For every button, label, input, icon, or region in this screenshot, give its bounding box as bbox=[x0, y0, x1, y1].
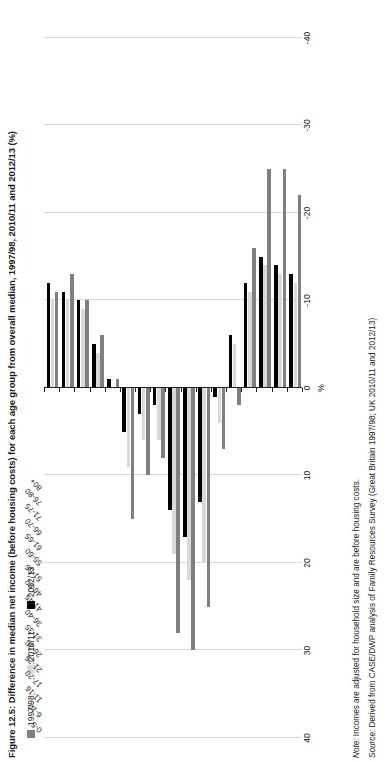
category-tick bbox=[165, 388, 166, 392]
bar-1997-98-51-55 bbox=[207, 388, 211, 607]
source-text: Derived from CASE/DWP analysis of Family… bbox=[368, 318, 377, 730]
bar-group bbox=[181, 38, 196, 738]
value-axis: 403020100-10-20-30-40% bbox=[302, 38, 318, 738]
bar-2010-11-6-10 bbox=[66, 301, 70, 389]
axis-tick-label-0: 0 bbox=[302, 386, 312, 391]
note-text: Incomes are adjusted for household size … bbox=[352, 479, 361, 738]
bar-1997-98-41-45 bbox=[176, 388, 180, 633]
bar-2010-11-76-80 bbox=[278, 274, 282, 388]
bar-1997-98-80+ bbox=[298, 196, 302, 389]
bar-2012-13-0-5 bbox=[47, 283, 51, 388]
bar-1997-98-55-60 bbox=[222, 388, 226, 449]
bar-2010-11-61-65 bbox=[233, 344, 237, 388]
bar-2012-13-31-35 bbox=[138, 388, 142, 414]
category-tick bbox=[272, 388, 273, 392]
axis-tick-label-20: 20 bbox=[302, 558, 312, 567]
bar-group bbox=[74, 38, 89, 738]
bar-group bbox=[150, 38, 165, 738]
category-label-11-16: 11-16 bbox=[24, 684, 44, 704]
bar-group bbox=[196, 38, 211, 738]
bar-group bbox=[272, 38, 287, 738]
bar-group bbox=[59, 38, 74, 738]
plot-area bbox=[44, 38, 302, 738]
bar-group bbox=[90, 38, 105, 738]
category-tick bbox=[211, 388, 212, 392]
bar-2012-13-80+ bbox=[289, 274, 293, 388]
category-tick bbox=[226, 388, 227, 392]
bar-2010-11-51-55 bbox=[202, 388, 206, 563]
bar-1997-98-0-5 bbox=[55, 292, 59, 388]
axis-tick-label-30: 30 bbox=[302, 646, 312, 655]
axis-tick-label--10: -10 bbox=[302, 294, 312, 306]
category-tick bbox=[44, 388, 45, 392]
category-tick bbox=[59, 388, 60, 392]
bar-2010-11-80+ bbox=[294, 283, 298, 388]
bar-group bbox=[120, 38, 135, 738]
chart-note: Note: Incomes are adjusted for household… bbox=[352, 479, 361, 758]
bar-2012-13-11-16 bbox=[77, 301, 81, 389]
bar-group bbox=[105, 38, 120, 738]
rotated-figure-wrapper: Figure 12.5: Difference in median net in… bbox=[0, 0, 391, 762]
category-tick bbox=[135, 388, 136, 392]
bar-1997-98-36-40 bbox=[161, 388, 165, 458]
category-tick bbox=[196, 388, 197, 392]
category-tick bbox=[150, 388, 151, 392]
bar-group bbox=[287, 38, 302, 738]
bar-2012-13-6-10 bbox=[62, 292, 66, 388]
bar-2010-11-55-60 bbox=[218, 388, 222, 423]
bar-2010-11-17-20 bbox=[96, 353, 100, 388]
bar-2010-11-41-45 bbox=[172, 388, 176, 554]
bar-2012-13-46-50 bbox=[183, 388, 187, 537]
bar-1997-98-46-50 bbox=[191, 388, 195, 651]
category-tick bbox=[256, 388, 257, 392]
bar-group bbox=[165, 38, 180, 738]
bar-1997-98-17-20 bbox=[100, 336, 104, 389]
bar-group bbox=[135, 38, 150, 738]
bar-2010-11-71-75 bbox=[263, 266, 267, 389]
bar-group bbox=[44, 38, 59, 738]
bar-2010-11-0-5 bbox=[51, 301, 55, 389]
bar-2010-11-46-50 bbox=[187, 388, 191, 581]
chart-source: Source: Derived from CASE/DWP analysis o… bbox=[368, 318, 377, 758]
bar-2010-11-31-35 bbox=[142, 388, 146, 441]
bar-1997-98-66-70 bbox=[252, 248, 256, 388]
category-axis-labels: 0-56-1011-1617-2021-2526-3031-3536-4041-… bbox=[0, 38, 44, 738]
source-prefix: Source: bbox=[368, 730, 377, 758]
category-tick bbox=[302, 388, 303, 392]
bar-group bbox=[211, 38, 226, 738]
bar-2012-13-61-65 bbox=[229, 336, 233, 389]
figure-container: Figure 12.5: Difference in median net in… bbox=[0, 0, 391, 762]
bar-2010-11-36-40 bbox=[157, 388, 161, 441]
bar-2012-13-36-40 bbox=[153, 388, 157, 406]
bar-1997-98-31-35 bbox=[146, 388, 150, 476]
bar-1997-98-61-65 bbox=[237, 388, 241, 406]
bar-group bbox=[226, 38, 241, 738]
category-tick bbox=[287, 388, 288, 392]
category-tick bbox=[105, 388, 106, 392]
bar-2010-11-11-16 bbox=[81, 309, 85, 388]
axis-tick-label--40: -40 bbox=[302, 32, 312, 44]
axis-tick-label--30: -30 bbox=[302, 119, 312, 131]
bar-group bbox=[241, 38, 256, 738]
category-tick bbox=[241, 388, 242, 392]
bar-2012-13-66-70 bbox=[244, 283, 248, 388]
category-label-6-10: 6-10 bbox=[26, 702, 44, 720]
bar-2012-13-71-75 bbox=[259, 257, 263, 388]
note-prefix: Note: bbox=[352, 738, 361, 758]
gridline-0 bbox=[44, 387, 302, 388]
bar-2010-11-26-30 bbox=[127, 388, 131, 467]
category-tick bbox=[74, 388, 75, 392]
category-tick bbox=[120, 388, 121, 392]
bar-1997-98-6-10 bbox=[70, 274, 74, 388]
bar-1997-98-76-80 bbox=[283, 169, 287, 388]
bar-2012-13-17-20 bbox=[92, 344, 96, 388]
axis-unit-label: % bbox=[316, 384, 326, 392]
category-tick bbox=[181, 388, 182, 392]
bar-2012-13-55-60 bbox=[213, 388, 217, 397]
bar-2012-13-76-80 bbox=[274, 266, 278, 389]
bar-2012-13-41-45 bbox=[168, 388, 172, 511]
axis-tick-label-10: 10 bbox=[302, 471, 312, 480]
bar-2012-13-26-30 bbox=[122, 388, 126, 432]
axis-tick-label--20: -20 bbox=[302, 207, 312, 219]
bar-1997-98-11-16 bbox=[85, 301, 89, 389]
